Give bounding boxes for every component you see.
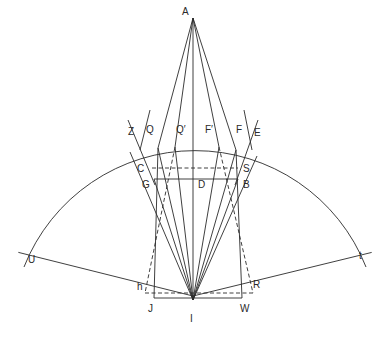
dashed-line-qp-h	[145, 147, 175, 293]
line-a-f	[193, 18, 236, 150]
label-point-e: E	[254, 127, 261, 138]
label-point-s: S	[243, 163, 250, 174]
line-q-j	[154, 148, 158, 298]
construction-line-3	[244, 110, 252, 150]
label-point-qp: Q′	[176, 124, 186, 135]
label-point-a: A	[182, 6, 189, 17]
geometry-diagram: AIZQQ′F′FECSGDBUthRJW	[0, 0, 387, 341]
label-point-r: R	[253, 279, 260, 290]
label-point-u: U	[28, 254, 35, 265]
line-qp-i	[175, 147, 193, 300]
label-point-q: Q	[146, 124, 154, 135]
label-point-g: G	[142, 179, 150, 190]
label-point-j: J	[148, 303, 153, 314]
line-q-i	[158, 148, 193, 300]
line-g-i	[154, 179, 193, 300]
label-point-d: D	[198, 179, 205, 190]
label-point-w: W	[240, 303, 250, 314]
line-z-i	[130, 152, 193, 300]
line-t-i	[193, 252, 372, 296]
label-point-h: h	[137, 281, 143, 292]
label-point-z: Z	[128, 126, 134, 137]
label-point-fp: F′	[205, 124, 213, 135]
label-point-c: C	[137, 163, 144, 174]
label-point-f: F	[236, 124, 242, 135]
label-point-t: t	[359, 250, 362, 261]
label-point-i: I	[190, 313, 193, 324]
point-labels: AIZQQ′F′FECSGDBUthRJW	[28, 6, 362, 324]
line-b-i	[193, 179, 238, 300]
label-point-b: B	[243, 179, 250, 190]
line-u-i	[18, 252, 193, 296]
line-e-i	[193, 156, 257, 300]
solid-lines	[18, 18, 371, 300]
